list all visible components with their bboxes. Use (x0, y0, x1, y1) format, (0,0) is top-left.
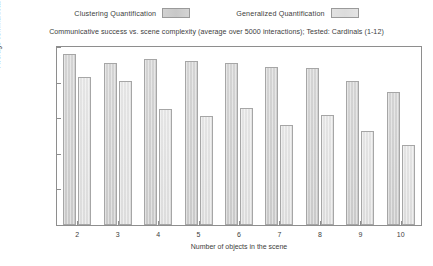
bar-6-series-2 (240, 108, 253, 225)
x-tick-label: 10 (381, 231, 421, 238)
bar-10-series-1 (387, 92, 400, 226)
bar-9-series-1 (346, 81, 359, 225)
bar-4-series-1 (144, 59, 157, 225)
x-tick-label: 4 (138, 231, 178, 238)
x-tick-mark (279, 221, 280, 225)
bar-3-series-1 (104, 63, 117, 225)
x-tick-label: 7 (259, 231, 299, 238)
legend-entry-clustering: Clustering Quantification (74, 8, 190, 18)
bar-10-series-2 (402, 145, 415, 225)
plot-inner: 00.20.40.60.812345678910 (57, 47, 421, 225)
x-tick-label: 2 (57, 231, 97, 238)
x-tick-label: 8 (300, 231, 340, 238)
x-tick-mark (360, 221, 361, 225)
bar-9-series-2 (361, 131, 374, 225)
x-axis-label: Number of objects in the scene (56, 243, 422, 250)
legend-swatch-clustering (162, 8, 190, 18)
bar-5-series-2 (200, 116, 213, 225)
bar-3-series-2 (119, 81, 132, 225)
y-tick-mark (57, 118, 61, 119)
y-tick-mark (57, 83, 61, 84)
y-tick-mark (57, 189, 61, 190)
y-tick-mark (57, 47, 61, 48)
x-tick-mark (118, 221, 119, 225)
x-tick-mark (401, 221, 402, 225)
y-tick-mark (57, 225, 61, 226)
y-axis-label: Average communicative success (0, 0, 1, 92)
bar-6-series-1 (225, 63, 238, 225)
legend-swatch-generalized (331, 8, 359, 18)
legend-entry-generalized: Generalized Quantification (236, 8, 358, 18)
x-tick-mark (320, 221, 321, 225)
chart-legend: Clustering Quantification Generalized Qu… (0, 6, 433, 20)
bar-8-series-2 (321, 115, 334, 225)
bar-4-series-2 (159, 109, 172, 225)
bar-5-series-1 (185, 61, 198, 225)
x-tick-mark (77, 221, 78, 225)
legend-label-generalized: Generalized Quantification (236, 9, 324, 18)
x-tick-label: 9 (340, 231, 380, 238)
y-tick-mark (57, 154, 61, 155)
bar-7-series-2 (280, 125, 293, 225)
chart-title: Communicative success vs. scene complexi… (0, 28, 433, 36)
x-tick-label: 3 (98, 231, 138, 238)
x-tick-mark (199, 221, 200, 225)
bar-8-series-1 (306, 68, 319, 225)
legend-label-clustering: Clustering Quantification (74, 9, 156, 18)
plot-area: 00.20.40.60.812345678910 (56, 46, 422, 226)
chart-root: Clustering Quantification Generalized Qu… (0, 0, 433, 266)
x-tick-label: 6 (219, 231, 259, 238)
x-tick-mark (239, 221, 240, 225)
x-tick-mark (158, 221, 159, 225)
bar-2-series-2 (78, 77, 91, 225)
x-tick-label: 5 (179, 231, 219, 238)
bar-7-series-1 (265, 67, 278, 225)
bar-2-series-1 (63, 54, 76, 225)
